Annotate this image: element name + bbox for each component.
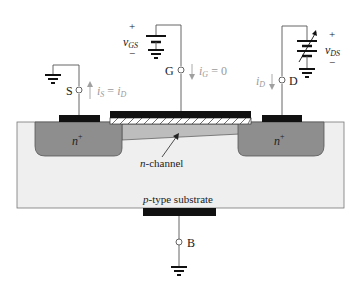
gate-oxide-layer [110, 118, 251, 124]
n-channel-label: n-channel [140, 157, 183, 169]
gate-ground-icon [148, 50, 164, 58]
vds-plus: + [329, 28, 335, 40]
drain-current-label: iD [256, 74, 265, 89]
drain-current-arrow-icon [269, 74, 275, 90]
drain-label: D [289, 74, 298, 88]
body-metal-contact [143, 208, 216, 216]
source-metal-contact [59, 115, 100, 122]
body-label: B [187, 236, 195, 250]
body-ground-icon [171, 267, 187, 275]
body-terminal[interactable] [176, 239, 182, 245]
gate-current-label: iG = 0 [199, 64, 227, 79]
vgs-minus: − [129, 47, 135, 59]
source-terminal[interactable] [76, 87, 82, 93]
gate-terminal[interactable] [178, 67, 184, 73]
vds-minus: − [329, 56, 335, 68]
gate-label: G [165, 64, 174, 78]
gate-battery-icon [146, 36, 166, 49]
gate-metal-contact [110, 111, 251, 118]
vgs-plus: + [129, 20, 135, 32]
p-substrate-label: p-type substrate [142, 193, 213, 205]
source-label: S [66, 84, 73, 98]
drain-ground-icon [299, 69, 315, 77]
drain-wire [282, 26, 307, 115]
source-current-arrow-icon [87, 81, 93, 99]
drain-metal-contact [262, 115, 302, 122]
mosfet-diagram: S iS = iD + vGS − G iG = 0 [0, 0, 357, 284]
drain-terminal[interactable] [279, 77, 285, 83]
source-current-label: iS = iD [97, 84, 126, 99]
gate-current-arrow-icon [189, 64, 195, 80]
source-ground-icon [45, 75, 61, 83]
